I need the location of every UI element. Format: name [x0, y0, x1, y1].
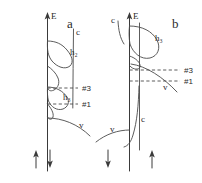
panel-b-level-1-label: #1: [184, 77, 193, 86]
panel-b-conduction-label-bottom: c: [141, 114, 145, 124]
figure-root: E a c h₂ h₃ #3 #1: [0, 0, 202, 183]
panel-b-valence-label-left: v: [110, 124, 115, 134]
panel-b-h3-label: h₃: [155, 33, 163, 43]
panel-b-label: b: [172, 16, 179, 31]
panel-b-up-arrow: [149, 150, 155, 168]
panel-a-conduction-band-edge: [73, 29, 74, 108]
panel-b-group: E b c h₃ #3 #1 v: [96, 11, 193, 171]
panel-a-group: E a c h₂ h₃ #3 #1: [33, 11, 91, 171]
panel-a-valence-band-edge: [48, 118, 91, 136]
panel-a-axis-label: E: [51, 11, 57, 21]
panel-b-conduction-label-top: c: [111, 15, 115, 25]
panel-b-down-arrow: [105, 150, 111, 168]
panel-a-conduction-label: c: [76, 27, 80, 37]
panel-a-valence-label: v: [79, 120, 84, 130]
panel-a-h3-label: h₃: [63, 92, 71, 102]
panel-a-h2-label: h₂: [70, 47, 78, 57]
panel-a-up-arrow: [33, 150, 39, 168]
panel-b-level-3-label: #3: [184, 66, 193, 75]
panel-b-wavefunction-h3-tail: [130, 56, 141, 69]
panel-b-axis-label: E: [133, 11, 139, 21]
panel-b-conduction-band-edge-top: [118, 21, 124, 44]
panel-b-valence-label-right: v: [163, 82, 168, 92]
panel-a-down-arrow: [47, 150, 53, 168]
panel-a-label: a: [67, 16, 73, 31]
panel-b-valence-band-edge-right: [131, 64, 177, 92]
band-diagram-svg: E a c h₂ h₃ #3 #1: [0, 0, 202, 183]
panel-a-wavefunction-h2: [47, 41, 72, 68]
panel-a-level-1-label: #1: [82, 100, 91, 109]
panel-a-level-3-label: #3: [82, 84, 91, 93]
panel-b-conduction-band-edge-bottom: [124, 86, 139, 147]
